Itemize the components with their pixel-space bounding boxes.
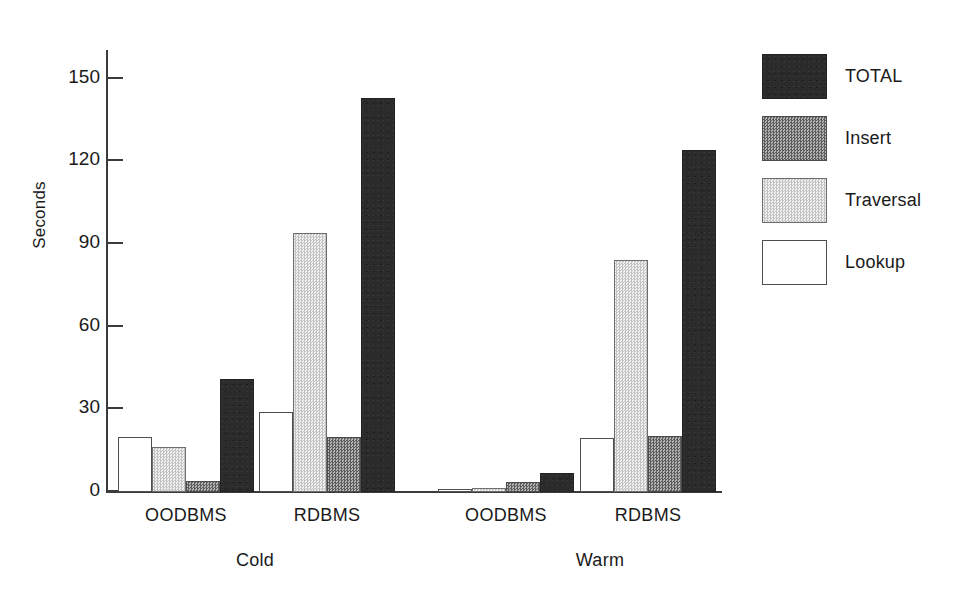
legend-label-total: TOTAL <box>845 66 902 87</box>
legend-swatch-total-icon <box>762 54 827 99</box>
y-tick-label-30: 30 <box>44 397 100 416</box>
legend-item-total[interactable]: TOTAL <box>762 45 952 107</box>
x-group-label-cold: Cold <box>185 550 325 571</box>
bar-insert-warm-rdbms <box>648 436 682 493</box>
bar-insert-warm-oodbms <box>506 482 540 492</box>
bar-lookup-cold-rdbms <box>259 412 293 492</box>
x-tick-label-warm-oodbms: OODBMS <box>436 505 576 526</box>
bar-insert-cold-rdbms <box>327 437 361 492</box>
bar-total-cold-rdbms <box>361 98 395 492</box>
legend-label-traversal: Traversal <box>845 190 921 211</box>
x-tick-label-warm-rdbms: RDBMS <box>578 505 718 526</box>
bar-total-warm-rdbms <box>682 150 716 492</box>
legend-swatch-lookup-icon <box>762 240 827 285</box>
chart-legend: TOTALInsertTraversalLookup <box>762 45 952 293</box>
legend-swatch-insert-icon <box>762 116 827 161</box>
x-group-label-warm: Warm <box>530 550 670 571</box>
legend-item-lookup[interactable]: Lookup <box>762 231 952 293</box>
legend-item-insert[interactable]: Insert <box>762 107 952 169</box>
plot-area <box>108 50 722 492</box>
bar-lookup-cold-oodbms <box>118 437 152 492</box>
bar-lookup-warm-rdbms <box>580 438 614 492</box>
y-tick-label-0: 0 <box>44 480 100 499</box>
bar-insert-cold-oodbms <box>186 481 220 492</box>
bar-total-cold-oodbms <box>220 379 254 492</box>
legend-label-insert: Insert <box>845 128 891 149</box>
bar-traversal-cold-oodbms <box>152 447 186 492</box>
x-tick-label-cold-rdbms: RDBMS <box>257 505 397 526</box>
bar-chart: Seconds 0306090120150 OODBMSRDBMSOODBMSR… <box>0 0 959 605</box>
y-tick-label-90: 90 <box>44 232 100 251</box>
y-tick-label-60: 60 <box>44 315 100 334</box>
bar-total-warm-oodbms <box>540 473 574 492</box>
x-tick-label-cold-oodbms: OODBMS <box>116 505 256 526</box>
legend-label-lookup: Lookup <box>845 252 905 273</box>
y-tick-label-150: 150 <box>44 67 100 86</box>
legend-item-traversal[interactable]: Traversal <box>762 169 952 231</box>
bar-traversal-cold-rdbms <box>293 233 327 492</box>
bar-lookup-warm-oodbms <box>438 489 472 492</box>
legend-swatch-traversal-icon <box>762 178 827 223</box>
bar-traversal-warm-oodbms <box>472 488 506 492</box>
bar-traversal-warm-rdbms <box>614 260 648 492</box>
y-tick-label-120: 120 <box>44 149 100 168</box>
